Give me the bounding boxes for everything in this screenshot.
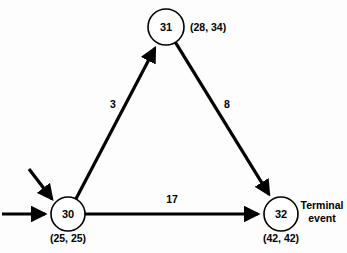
node-32-label: 32 — [275, 208, 287, 220]
edge-weight-31-32: 8 — [224, 98, 230, 110]
node-31-label: 31 — [160, 21, 172, 33]
terminal-event-note-line2: event — [308, 212, 336, 224]
network-diagram: 3 8 17 30 31 32 (25, 25) (28, 34) (42, 4… — [0, 0, 347, 253]
node-32-times: (42, 42) — [263, 232, 299, 244]
node-30-times: (25, 25) — [50, 232, 86, 244]
edge-weight-30-31: 3 — [110, 98, 116, 110]
node-31-times: (28, 34) — [190, 21, 226, 33]
node-30-label: 30 — [62, 208, 74, 220]
diagonal-entry-arrow — [29, 169, 52, 199]
edge-31-to-32 — [175, 42, 269, 194]
edge-30-to-31 — [76, 48, 155, 199]
edge-weight-30-32: 17 — [166, 193, 178, 205]
network-svg: 3 8 17 30 31 32 (25, 25) (28, 34) (42, 4… — [0, 0, 347, 253]
terminal-event-note-line1: Terminal — [301, 199, 344, 211]
